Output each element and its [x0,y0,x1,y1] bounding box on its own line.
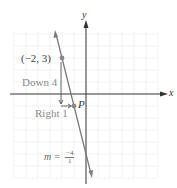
slope-prefix: m = [44,151,60,162]
coordinate-plane [0,0,177,188]
point-label-p: P [78,99,85,110]
point-neg2-3 [60,56,65,61]
slope-fraction: −4 1 [65,150,74,165]
line-arrow-bottom-icon [89,170,94,178]
point-label-neg2-3: (−2, 3) [21,53,51,64]
point-p [72,104,77,109]
x-axis-arrow-icon [160,92,168,97]
y-axis-label: y [82,10,86,20]
y-axis-arrow-icon [84,20,89,28]
down-4-label: Down 4 [22,77,57,88]
x-axis-label: x [169,88,173,98]
right-1-label: Right 1 [35,108,68,119]
axes [10,20,168,184]
slope-denominator: 1 [65,158,74,165]
slope-equation: m = −4 1 [44,150,74,165]
